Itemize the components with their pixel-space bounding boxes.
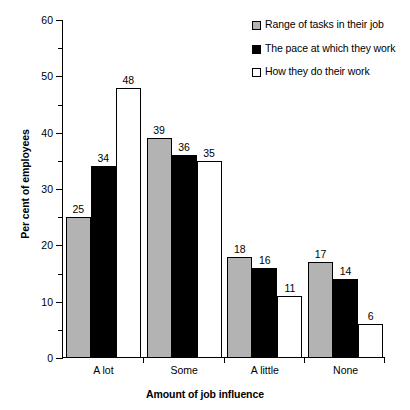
bar-value-label: 35: [203, 147, 215, 159]
bar: 48: [116, 88, 141, 358]
x-axis-category-label: Some: [170, 364, 197, 376]
x-axis-category-label: None: [333, 364, 358, 376]
bar-value-label: 16: [259, 254, 271, 266]
bar-group: 181611: [227, 20, 302, 358]
bar-chart: Range of tasks in their job The pace at …: [0, 0, 410, 410]
y-tick-label: 0: [47, 352, 53, 364]
y-tick-label: 40: [41, 127, 53, 139]
bar-value-label: 48: [123, 74, 135, 86]
bar-group: 393635: [147, 20, 222, 358]
bar: 14: [333, 279, 358, 358]
x-axis-category-label: A lot: [93, 364, 113, 376]
bar-value-label: 34: [98, 152, 110, 164]
y-tick-mark: [56, 76, 63, 77]
bar: 25: [66, 217, 91, 358]
y-axis-title: Per cent of employees: [19, 114, 31, 254]
bar-value-label: 36: [178, 141, 190, 153]
y-tick-minor-mark: [58, 48, 63, 49]
x-axis-title: Amount of job influence: [0, 388, 410, 400]
y-tick-minor-mark: [58, 217, 63, 218]
y-tick-minor-mark: [58, 274, 63, 275]
y-tick-mark: [56, 189, 63, 190]
x-tick-mark: [224, 357, 225, 363]
x-tick-mark: [143, 357, 144, 363]
bar: 17: [308, 262, 333, 358]
bar: 39: [147, 138, 172, 358]
y-tick-mark: [56, 20, 63, 21]
x-tick-mark: [304, 357, 305, 363]
bar-value-label: 11: [284, 282, 295, 294]
bar: 11: [277, 296, 302, 358]
bar-group: 17146: [308, 20, 383, 358]
bar-value-label: 17: [315, 248, 327, 260]
bar: 6: [358, 324, 383, 358]
y-tick-label: 60: [41, 14, 53, 26]
y-tick-label: 20: [41, 239, 53, 251]
plot-area: 0102030405060 25344839363518161117146: [62, 20, 385, 358]
bar: 36: [172, 155, 197, 358]
y-tick-mark: [56, 358, 63, 359]
bar-value-label: 14: [340, 265, 352, 277]
y-tick-label: 10: [41, 296, 53, 308]
x-tick-mark: [384, 357, 385, 363]
y-tick-minor-mark: [58, 330, 63, 331]
bar-value-label: 6: [368, 310, 374, 322]
bar-value-label: 25: [73, 203, 85, 215]
y-tick-label: 30: [41, 183, 53, 195]
y-tick-minor-mark: [58, 105, 63, 106]
bar-group: 253448: [66, 20, 141, 358]
y-tick-mark: [56, 302, 63, 303]
bar: 35: [197, 161, 222, 358]
y-tick-label: 50: [41, 70, 53, 82]
x-axis-category-label: A little: [251, 364, 279, 376]
bar: 16: [252, 268, 277, 358]
y-tick-mark: [56, 245, 63, 246]
bar-value-label: 18: [234, 243, 246, 255]
y-tick-mark: [56, 133, 63, 134]
y-tick-minor-mark: [58, 161, 63, 162]
bar: 34: [91, 166, 116, 358]
bar: 18: [227, 257, 252, 358]
bar-value-label: 39: [153, 124, 165, 136]
